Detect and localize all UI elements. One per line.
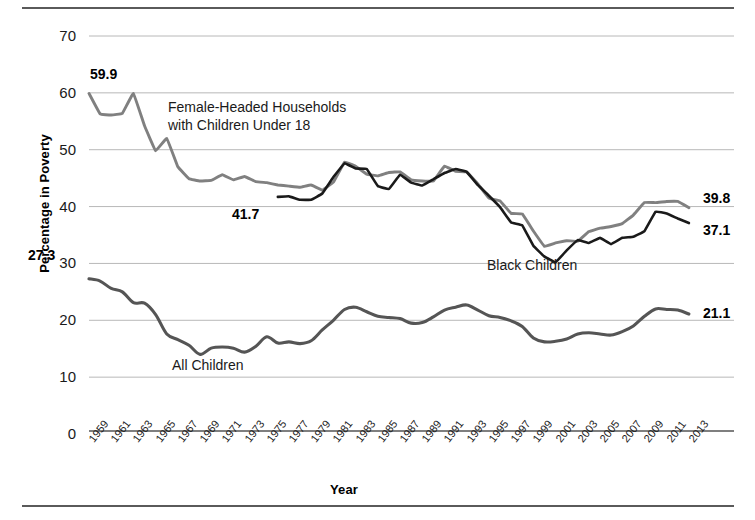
series-label-black-children: Black Children (487, 257, 577, 275)
series-label-female-headed-line2: with Children Under 18 (168, 117, 346, 135)
y-tick-60: 60 (34, 84, 76, 101)
value-label-all-start: 27.3 (28, 247, 55, 263)
chart-page: Percentage in Poverty Year 0102030405060… (0, 0, 755, 520)
y-tick-0: 0 (34, 425, 76, 442)
y-tick-70: 70 (34, 27, 76, 44)
series-line-2 (89, 279, 689, 355)
y-tick-50: 50 (34, 141, 76, 158)
y-tick-20: 20 (34, 311, 76, 328)
series-label-all-children: All Children (172, 357, 244, 375)
series-label-female-headed-line1: Female-Headed Households (168, 99, 346, 117)
value-label-fhh-end: 39.8 (703, 190, 730, 206)
series-label-female-headed: Female-Headed Households with Children U… (168, 99, 346, 134)
series-line-1 (278, 163, 689, 262)
value-label-all-end: 21.1 (703, 305, 730, 321)
value-label-fhh-start: 59.9 (90, 66, 117, 82)
y-tick-10: 10 (34, 368, 76, 385)
value-label-black-end: 37.1 (703, 222, 730, 238)
value-label-black-start: 41.7 (232, 206, 259, 222)
y-tick-40: 40 (34, 198, 76, 215)
